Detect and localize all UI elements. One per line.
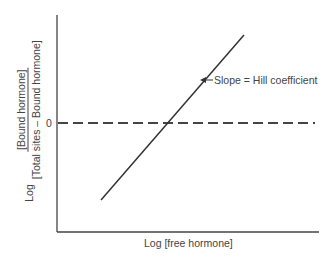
slope-annotation: Slope = Hill coefficient <box>214 74 317 86</box>
y-label-numerator: [Bound hormone] <box>15 67 29 152</box>
hill-line <box>101 35 244 200</box>
y-axis-label: Log [Bound hormone] [Total sites – Bound… <box>8 20 48 220</box>
x-axis-label: Log [free hormone] <box>144 237 233 249</box>
plot-area <box>0 0 330 260</box>
y-tick-zero: 0 <box>46 117 52 129</box>
y-label-denominator: [Total sites – Bound hormone] <box>29 38 42 181</box>
hill-plot-chart: Log [Bound hormone] [Total sites – Bound… <box>0 0 330 260</box>
y-label-prefix: Log <box>22 184 34 202</box>
y-label-fraction: [Bound hormone] [Total sites – Bound hor… <box>15 38 42 181</box>
